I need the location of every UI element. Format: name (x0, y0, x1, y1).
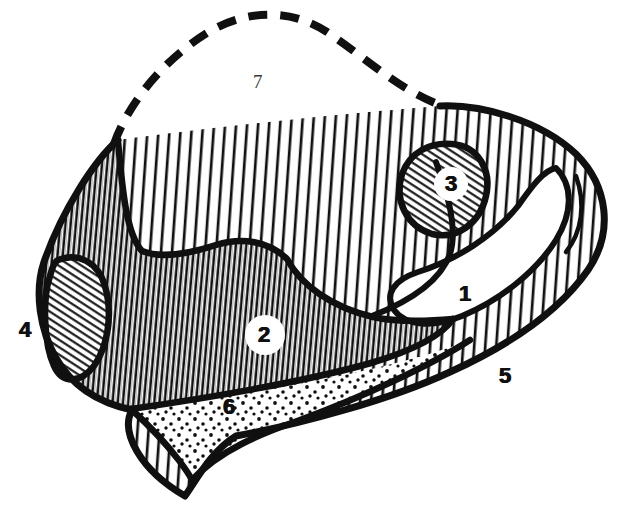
region-label-6: 6 (223, 396, 235, 418)
region-label-3: 3 (445, 173, 457, 195)
figure-drawing (0, 0, 640, 519)
region-label-1: 1 (459, 283, 471, 305)
region-label-4: 4 (19, 319, 31, 341)
figure-root: 1 2 3 4 5 6 7 (0, 0, 640, 519)
region-label-2: 2 (258, 324, 270, 346)
region-label-7: 7 (253, 72, 263, 91)
region-label-5: 5 (499, 365, 511, 387)
